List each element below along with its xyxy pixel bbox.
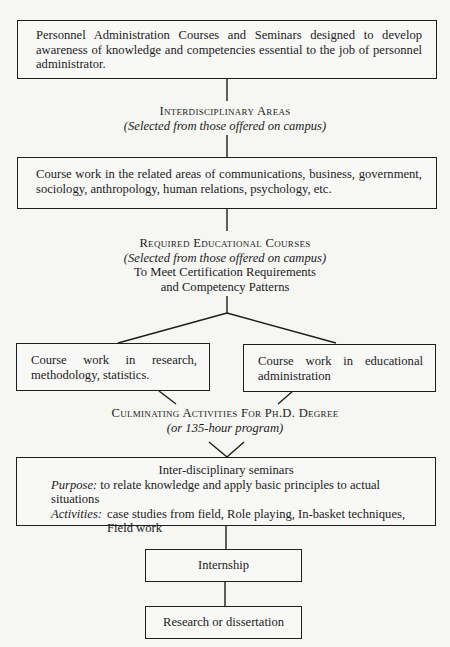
interdisciplinary-label: Interdisciplinary Areas (Selected from t… xyxy=(0,104,450,133)
educational-admin-box: Course work in educational administratio… xyxy=(243,344,436,392)
culminating-title: Culminating Activities For Ph.D. Degree xyxy=(0,406,450,421)
internship-text: Internship xyxy=(198,558,249,572)
v-right xyxy=(227,442,244,457)
interdisciplinary-subtitle: (Selected from those offered on campus) xyxy=(0,119,450,134)
related-areas-text: Course work in the related areas of comm… xyxy=(36,167,422,196)
research-methods-box: Course work in research, methodology, st… xyxy=(16,343,210,391)
activities-key: Activities: xyxy=(51,507,107,536)
fork-right xyxy=(227,313,336,343)
fork-left xyxy=(118,313,227,343)
seminars-purpose: Purpose: to relate knowledge and apply b… xyxy=(51,478,423,507)
related-areas-box: Course work in the related areas of comm… xyxy=(17,157,437,209)
research-text: Research or dissertation xyxy=(163,615,284,629)
activities-text: case studies from field, Role playing, I… xyxy=(107,507,423,536)
internship-box: Internship xyxy=(145,549,302,582)
certification-line: To Meet Certification Requirements xyxy=(0,265,450,280)
required-courses-title: Required Educational Courses xyxy=(0,236,450,251)
research-methods-text: Course work in research, methodology, st… xyxy=(31,353,197,382)
purpose-key: Purpose: xyxy=(51,478,97,492)
competency-line: and Competency Patterns xyxy=(0,280,450,295)
merge-left xyxy=(159,391,176,404)
required-courses-subtitle: (Selected from those offered on campus) xyxy=(0,251,450,266)
interdisciplinary-title: Interdisciplinary Areas xyxy=(0,104,450,119)
educational-admin-text: Course work in educational administratio… xyxy=(258,354,423,383)
seminars-box: Inter-disciplinary seminars Purpose: to … xyxy=(16,457,436,526)
culminating-subtitle: (or 135-hour program) xyxy=(0,421,450,436)
research-box: Research or dissertation xyxy=(145,606,302,639)
seminars-title: Inter-disciplinary seminars xyxy=(29,463,423,478)
purpose-text: to relate knowledge and apply basic prin… xyxy=(51,478,380,507)
seminars-activities: Activities: case studies from field, Rol… xyxy=(51,507,423,536)
culminating-label: Culminating Activities For Ph.D. Degree … xyxy=(0,406,450,435)
personnel-courses-text: Personnel Administration Courses and Sem… xyxy=(36,28,422,71)
merge-right xyxy=(278,391,293,404)
required-courses-label: Required Educational Courses (Selected f… xyxy=(0,236,450,294)
personnel-courses-box: Personnel Administration Courses and Sem… xyxy=(17,20,437,79)
v-left xyxy=(209,442,227,457)
